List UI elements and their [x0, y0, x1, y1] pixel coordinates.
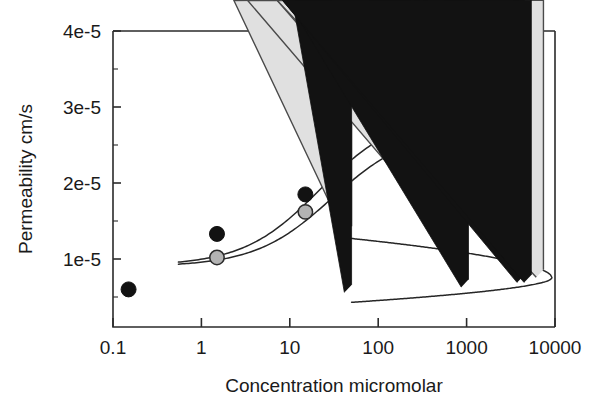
data-marker-group — [121, 0, 543, 297]
x-tick-label: 1 — [196, 337, 207, 358]
x-tick-label: 1000 — [445, 337, 487, 358]
data-point-filled-circle — [298, 187, 313, 202]
y-axis-title: Permeability cm/s — [15, 104, 36, 254]
chart-figure: 1e-52e-53e-54e-5 0.1110100100010000 Perm… — [0, 0, 602, 410]
y-tick-label: 3e-5 — [63, 97, 101, 118]
data-point-filled-circle — [209, 226, 224, 241]
y-tick-label: 4e-5 — [63, 21, 101, 42]
scatter-plot: 1e-52e-53e-54e-5 0.1110100100010000 Perm… — [0, 0, 602, 410]
data-point-gray-circle — [210, 250, 224, 264]
x-tick-label-group: 0.1110100100010000 — [100, 337, 582, 358]
y-tick-label: 1e-5 — [63, 249, 101, 270]
x-tick-label: 100 — [362, 337, 394, 358]
y-tick-label: 2e-5 — [63, 173, 101, 194]
x-axis-title: Concentration micromolar — [225, 375, 443, 396]
data-point-filled-circle — [121, 282, 136, 297]
data-point-gray-circle — [298, 205, 312, 219]
x-tick-label: 0.1 — [100, 337, 126, 358]
x-tick-label: 10000 — [529, 337, 582, 358]
y-axis-ticks — [113, 31, 121, 297]
x-tick-label: 10 — [279, 337, 300, 358]
increasing-fit — [352, 278, 552, 302]
y-tick-label-group: 1e-52e-53e-54e-5 — [63, 21, 101, 270]
x-axis-ticks — [113, 318, 555, 327]
